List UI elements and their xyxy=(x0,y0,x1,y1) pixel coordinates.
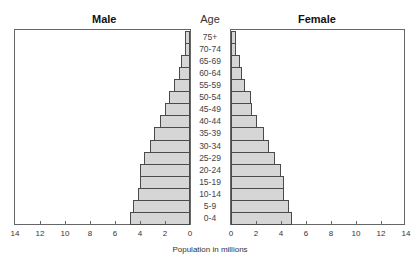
age-group-label: 45-49 xyxy=(190,103,230,115)
age-axis-title: Age xyxy=(196,13,224,25)
male-x-tick-label: 4 xyxy=(130,229,150,238)
male-x-tick-label: 14 xyxy=(5,229,25,238)
age-group-label: 75+ xyxy=(190,31,230,43)
male-x-tick xyxy=(65,221,66,224)
male-bar xyxy=(130,212,190,225)
male-x-tick xyxy=(90,221,91,224)
age-group-label: 25-29 xyxy=(190,152,230,164)
female-x-tick xyxy=(356,221,357,224)
female-x-tick xyxy=(306,221,307,224)
male-panel-title: Male xyxy=(92,13,116,25)
female-x-tick xyxy=(281,221,282,224)
female-x-tick-label: 4 xyxy=(271,229,291,238)
age-group-label: 40-44 xyxy=(190,115,230,127)
male-x-tick xyxy=(140,221,141,224)
male-x-tick-label: 8 xyxy=(80,229,100,238)
age-group-label: 50-54 xyxy=(190,91,230,103)
female-x-tick-label: 14 xyxy=(396,229,416,238)
male-x-tick-label: 2 xyxy=(155,229,175,238)
age-group-label: 65-69 xyxy=(190,55,230,67)
male-x-tick-label: 12 xyxy=(30,229,50,238)
age-group-label: 35-39 xyxy=(190,127,230,139)
age-group-label: 10-14 xyxy=(190,188,230,200)
age-group-label: 5-9 xyxy=(190,200,230,212)
age-group-label: 70-74 xyxy=(190,43,230,55)
female-bar xyxy=(231,212,292,225)
male-x-tick xyxy=(165,221,166,224)
x-axis-label: Population in millions xyxy=(150,245,270,254)
age-group-label: 20-24 xyxy=(190,164,230,176)
female-x-tick xyxy=(256,221,257,224)
age-group-label: 55-59 xyxy=(190,79,230,91)
male-x-tick-label: 6 xyxy=(105,229,125,238)
female-x-tick-label: 0 xyxy=(221,229,241,238)
female-x-tick xyxy=(331,221,332,224)
female-x-tick-label: 8 xyxy=(321,229,341,238)
age-group-label: 0-4 xyxy=(190,212,230,224)
male-x-tick xyxy=(115,221,116,224)
male-x-tick-label: 10 xyxy=(55,229,75,238)
age-group-label: 15-19 xyxy=(190,176,230,188)
female-x-tick-label: 10 xyxy=(346,229,366,238)
male-x-tick-label: 0 xyxy=(180,229,200,238)
female-x-tick-label: 12 xyxy=(371,229,391,238)
female-x-tick-label: 2 xyxy=(246,229,266,238)
age-group-label: 30-34 xyxy=(190,140,230,152)
female-panel-title: Female xyxy=(298,13,336,25)
age-group-label: 60-64 xyxy=(190,67,230,79)
female-x-tick-label: 6 xyxy=(296,229,316,238)
male-x-tick xyxy=(40,221,41,224)
female-x-tick xyxy=(381,221,382,224)
